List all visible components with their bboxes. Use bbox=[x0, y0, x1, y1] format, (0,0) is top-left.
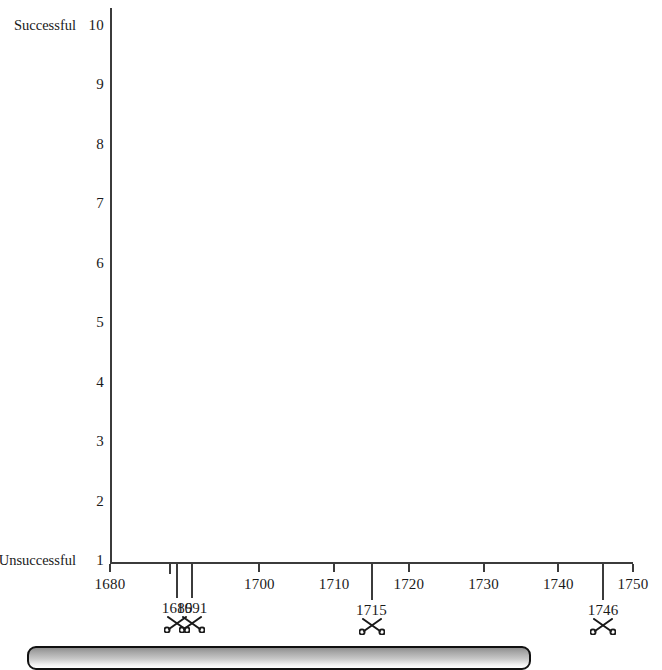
crossed-swords-icon bbox=[355, 618, 389, 636]
y-axis-line bbox=[110, 8, 112, 564]
x-tick-1750 bbox=[632, 564, 634, 572]
event-marker-line-1691[interactable] bbox=[191, 564, 193, 598]
x-tick-1740 bbox=[557, 564, 559, 572]
crossed-swords-icon bbox=[586, 618, 620, 636]
x-tick-1730 bbox=[483, 564, 485, 572]
y-tick-label-4: 4 bbox=[78, 375, 104, 390]
x-tick-1720 bbox=[408, 564, 410, 572]
event-marker-line-1746[interactable] bbox=[602, 564, 604, 600]
y-axis-end-label-successful: Successful bbox=[14, 18, 76, 33]
x-tick-1710 bbox=[333, 564, 335, 572]
event-year-label-1715: 1715 bbox=[337, 602, 407, 618]
x-tick-1680 bbox=[109, 564, 111, 572]
y-tick-label-10: 10 bbox=[78, 18, 104, 33]
y-axis-end-label-unsuccessful: Unsuccessful bbox=[0, 553, 76, 568]
y-tick-label-2: 2 bbox=[78, 494, 104, 509]
x-tick-label-1700: 1700 bbox=[229, 576, 289, 593]
x-tick-label-1730: 1730 bbox=[454, 576, 514, 593]
y-tick-label-3: 3 bbox=[78, 434, 104, 449]
event-year-label-1746: 1746 bbox=[568, 602, 638, 618]
x-tick-label-1710: 1710 bbox=[304, 576, 364, 593]
x-tick-label-1680: 1680 bbox=[80, 576, 140, 593]
x-tick-label-1740: 1740 bbox=[528, 576, 588, 593]
x-tick-1700 bbox=[258, 564, 260, 572]
y-axis-end-label-wrap: Successful bbox=[0, 18, 76, 33]
y-tick-label-8: 8 bbox=[78, 137, 104, 152]
y-axis-end-label-wrap: Unsuccessful bbox=[0, 553, 76, 568]
y-tick-label-7: 7 bbox=[78, 196, 104, 211]
y-tick-label-5: 5 bbox=[78, 315, 104, 330]
x-tick-label-1720: 1720 bbox=[379, 576, 439, 593]
crossed-swords-icon bbox=[175, 616, 209, 634]
y-tick-label-6: 6 bbox=[78, 256, 104, 271]
y-tick-label-9: 9 bbox=[78, 77, 104, 92]
bottom-gradient-bar[interactable] bbox=[27, 646, 531, 670]
event-year-label-1691: 1691 bbox=[157, 600, 227, 616]
y-tick-label-1: 1 bbox=[78, 553, 104, 568]
x-tick-label-1750: 1750 bbox=[603, 576, 662, 593]
event-marker-stub-1689 bbox=[169, 564, 171, 574]
event-marker-line-1715[interactable] bbox=[371, 564, 373, 600]
event-marker-line-1689[interactable] bbox=[176, 564, 178, 598]
